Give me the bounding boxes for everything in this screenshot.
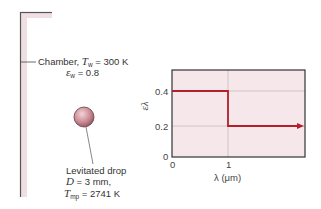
chamber-wall	[20, 12, 52, 197]
y-axis-label: ελ	[138, 101, 150, 110]
y-tick-0: 0	[163, 151, 168, 162]
drop-temperature: Tmp = 2741 K	[64, 188, 120, 202]
x-tick-0: 0	[170, 159, 175, 170]
chamber-emissivity: εw = 0.8	[66, 67, 99, 81]
x-tick-1: 1	[226, 159, 231, 170]
diagram-canvas	[0, 0, 321, 209]
drop-title: Levitated drop	[66, 165, 126, 176]
x-axis-label: λ (μm)	[214, 172, 241, 183]
emissivity-plot	[172, 70, 305, 157]
y-tick-0.2: 0.2	[155, 121, 168, 132]
plot-area	[172, 70, 305, 157]
drop-diameter: D = 3 mm,	[66, 176, 111, 187]
drop-leader-line	[86, 127, 93, 164]
y-tick-0.4: 0.4	[155, 86, 168, 97]
levitated-drop	[74, 107, 94, 127]
